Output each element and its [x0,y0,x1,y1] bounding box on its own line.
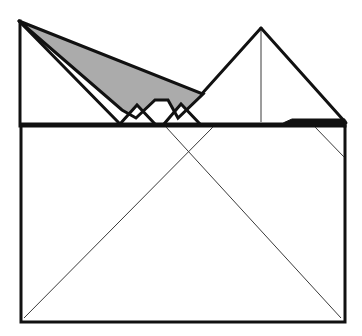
figure-root [0,0,362,336]
base-rectangle [21,126,345,322]
geometric-figure-svg [0,0,362,336]
